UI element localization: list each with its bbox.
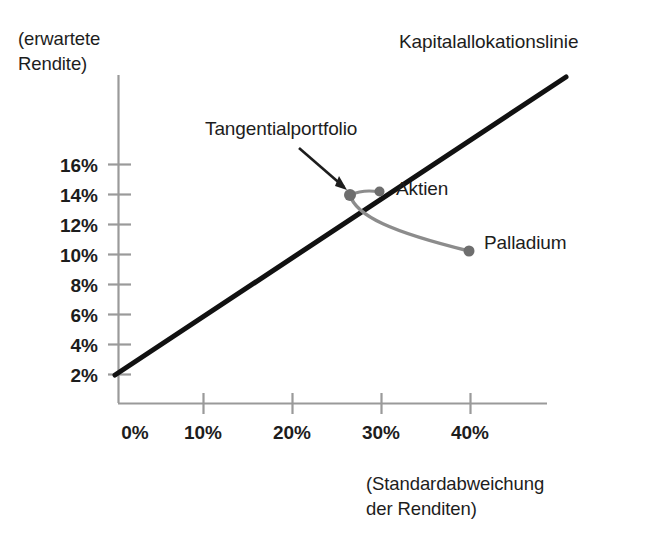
y-axis-title-line2: Rendite) [18, 53, 87, 74]
y-axis-title-line1: (erwartete [18, 28, 100, 49]
y-tick-label-8: 8% [36, 275, 98, 297]
x-tick-label-40: 40% [435, 422, 505, 444]
y-tick-label-10: 10% [36, 245, 98, 267]
y-axis-title: (erwarteteRendite) [18, 26, 100, 76]
y-tick-label-2: 2% [36, 365, 98, 387]
x-tick-label-20: 20% [257, 422, 327, 444]
series-label-palladium: Palladium [484, 232, 567, 254]
marker-tangentialportfolio[interactable] [344, 189, 356, 201]
x-axis-title: (Standardabweichungder Renditen) [366, 471, 544, 521]
x-tick-label-30: 30% [346, 422, 416, 444]
y-tick-label-16: 16% [36, 155, 98, 177]
series-label-aktien: Aktien [396, 178, 448, 200]
chart-canvas [0, 0, 656, 544]
chart-figure: (erwarteteRendite) (Standardabweichungde… [0, 0, 656, 544]
marker-palladium[interactable] [464, 246, 475, 257]
tangentialportfolio-arrow [299, 148, 347, 190]
x-tick-label-0: 0% [100, 422, 170, 444]
efficient-frontier-lower [350, 195, 469, 251]
x-tick-label-10: 10% [168, 422, 238, 444]
y-tick-label-12: 12% [36, 215, 98, 237]
tangentialportfolio-label: Tangentialportfolio [205, 118, 357, 140]
capital-allocation-line-label: Kapitalallokationslinie [399, 31, 578, 53]
x-axis-title-line2: der Renditen) [366, 498, 477, 519]
x-axis-title-line1: (Standardabweichung [366, 473, 544, 494]
y-tick-label-4: 4% [36, 335, 98, 357]
y-tick-label-14: 14% [36, 185, 98, 207]
y-tick-label-6: 6% [36, 305, 98, 327]
marker-aktien[interactable] [375, 187, 385, 197]
